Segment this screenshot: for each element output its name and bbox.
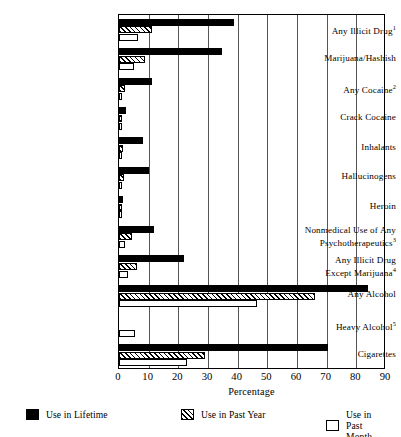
category-label: Heroin	[285, 201, 401, 211]
gridline-20	[178, 15, 179, 368]
gridline-50	[267, 15, 268, 368]
bar	[119, 63, 134, 70]
bar	[119, 359, 187, 366]
category-label: Hallucinogens	[285, 171, 401, 181]
bar	[119, 196, 123, 203]
chart-legend: Use in LifetimeUse in Past YearUse in Pa…	[26, 409, 382, 427]
bar	[119, 226, 154, 233]
bar	[119, 78, 152, 85]
bar	[119, 93, 122, 100]
gridline-10	[149, 15, 150, 368]
gridline-70	[327, 15, 328, 368]
bar	[119, 300, 257, 307]
bar	[119, 56, 145, 63]
bar	[119, 211, 122, 218]
bar	[119, 330, 135, 337]
plot-area	[118, 14, 385, 369]
category-label: Nonmedical Use of AnyPsychotherapeutics3	[285, 225, 401, 248]
bar	[119, 233, 132, 240]
gridline-40	[238, 15, 239, 368]
bar	[119, 145, 123, 152]
bar	[119, 48, 222, 55]
category-label: Inhalants	[285, 142, 401, 152]
bar	[119, 85, 125, 92]
gridline-30	[208, 15, 209, 368]
legend-swatch-pastyear-icon	[181, 409, 194, 420]
x-axis-tick-labels: 0102030405060708090	[118, 371, 385, 387]
category-label: Heavy Alcohol5	[285, 319, 401, 332]
bar	[119, 204, 122, 211]
category-label: Cigarettes	[285, 349, 401, 359]
bar	[119, 271, 128, 278]
legend-label: Use in Past Month	[346, 409, 382, 437]
bar	[119, 19, 234, 26]
bar	[119, 26, 152, 33]
bar	[119, 34, 138, 41]
bar	[119, 352, 205, 359]
category-label: Crack Cocaine	[285, 112, 401, 122]
legend-item-lifetime: Use in Lifetime	[26, 409, 108, 420]
bar	[119, 115, 122, 122]
legend-label: Use in Lifetime	[46, 409, 108, 420]
x-axis-title: Percentage	[118, 386, 385, 397]
bar	[119, 263, 137, 270]
legend-item-pastmonth: Use in Past Month	[326, 409, 382, 437]
category-label: Any Cocaine2	[285, 82, 401, 95]
bar	[119, 174, 124, 181]
category-label: Any Alcohol	[285, 289, 401, 299]
bar-chart: Any Illicit Drug1Marijuana/HashishAny Co…	[0, 0, 401, 437]
bar	[119, 167, 149, 174]
gridline-60	[297, 15, 298, 368]
category-label: Any Illicit Drug1	[285, 23, 401, 36]
bar	[119, 255, 184, 262]
bar	[119, 182, 122, 189]
x-tick-90: 90	[368, 371, 401, 382]
bar	[119, 152, 122, 159]
bar	[119, 241, 125, 248]
bar	[119, 137, 143, 144]
gridline-80	[356, 15, 357, 368]
category-label: Marijuana/Hashish	[285, 53, 401, 63]
legend-swatch-pastmonth-icon	[326, 420, 339, 431]
legend-swatch-lifetime-icon	[26, 409, 39, 420]
bar	[119, 123, 122, 130]
bar	[119, 107, 126, 114]
legend-label: Use in Past Year	[201, 409, 266, 420]
legend-item-pastyear: Use in Past Year	[181, 409, 266, 420]
category-label: Any Illicit DrugExcept Marijuana4	[285, 255, 401, 278]
